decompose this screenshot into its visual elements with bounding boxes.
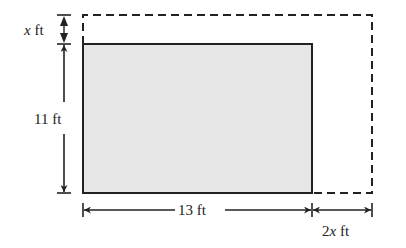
width-label: 13 ft (178, 202, 207, 218)
rectangle-dimension-diagram: x ft 11 ft 13 ft 2x ft (0, 0, 406, 248)
right-extension-dimension (313, 203, 372, 217)
right-extension-label: 2x ft (322, 223, 350, 239)
height-label: 11 ft (34, 111, 62, 127)
top-extension-dimension (57, 15, 71, 44)
top-extension-label: x ft (23, 22, 44, 38)
inner-rectangle (83, 44, 312, 193)
